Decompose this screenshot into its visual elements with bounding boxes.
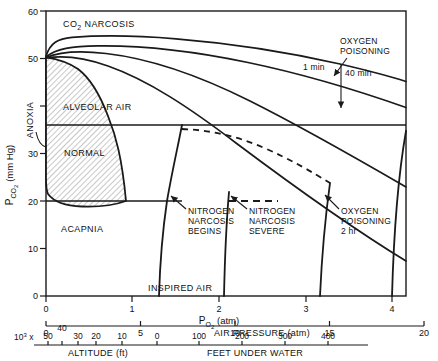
y-tick-0: 0 bbox=[33, 291, 38, 301]
altitude-prefix-base: 10 bbox=[14, 332, 24, 342]
depth-tick-400: 400 bbox=[321, 331, 335, 341]
normal-label: NORMAL bbox=[64, 148, 105, 158]
alt-tick-0: 0 bbox=[155, 331, 160, 341]
inspired-air-label: INSPIRED AIR bbox=[148, 283, 212, 293]
x-tick-4: 4 bbox=[389, 304, 394, 314]
op2-line3: 2 hr bbox=[341, 226, 356, 236]
y-tick-60: 60 bbox=[28, 7, 38, 17]
alveolar-air-label: ALVEOLAR AIR bbox=[63, 102, 132, 112]
ap-tick-5: 5 bbox=[138, 328, 143, 338]
y-axis-title-units: (mm Hg) bbox=[4, 145, 15, 182]
alt-tick-40: 40 bbox=[57, 323, 67, 333]
alt-tick-50: 50 bbox=[43, 331, 53, 341]
ap-tick-20: 20 bbox=[419, 328, 429, 338]
y-axis-tick-labels: 60 50 30 20 10 0 bbox=[28, 7, 38, 301]
y-tick-30: 30 bbox=[28, 149, 38, 159]
altitude-prefix-x: x bbox=[29, 332, 34, 342]
co2-narcosis-label: CO2 NARCOSIS bbox=[63, 19, 135, 31]
y-axis-title-sub: CO bbox=[10, 187, 17, 198]
alt-tick-20: 20 bbox=[91, 331, 101, 341]
co2-narcosis-label-main: CO bbox=[63, 19, 77, 29]
forty-min-label: 40 min bbox=[345, 68, 372, 78]
figure-root: 60 50 30 20 10 0 PCO2 (mm Hg) ANOXIA 0 bbox=[0, 0, 438, 361]
x-axis-primary-labels: 0 1 2 3 4 bbox=[43, 304, 394, 314]
op2-line2: POISONING bbox=[341, 216, 391, 226]
depth-tick-300: 300 bbox=[278, 331, 292, 341]
nnb-line1: NITROGEN bbox=[188, 206, 234, 216]
nns-line1: NITROGEN bbox=[249, 206, 295, 216]
alt-tick-30: 30 bbox=[73, 331, 83, 341]
op2-line1: OXYGEN bbox=[341, 206, 379, 216]
air-pressure-ticks bbox=[46, 321, 424, 326]
y-axis-ticks bbox=[40, 11, 46, 296]
alt-tick-10: 10 bbox=[117, 331, 127, 341]
y-axis-title: PCO2 (mm Hg) bbox=[4, 145, 19, 205]
oxygen-poisoning-top-line2: POISONING bbox=[340, 46, 390, 56]
svg-text:ANOXIA: ANOXIA bbox=[25, 102, 35, 138]
nnb-line2: NARCOSIS bbox=[188, 216, 234, 226]
x-axis-primary-ticks bbox=[46, 296, 392, 302]
anoxia-leader-line bbox=[36, 132, 46, 147]
x-tick-0: 0 bbox=[43, 304, 48, 314]
svg-text:PCO2 (mm Hg): PCO2 (mm Hg) bbox=[4, 145, 19, 205]
anoxia-label: ANOXIA bbox=[25, 102, 35, 138]
nns-line3: SEVERE bbox=[249, 226, 285, 236]
depth-tick-200: 200 bbox=[235, 331, 249, 341]
altitude-axis-title: ALTITUDE (ft) bbox=[68, 348, 128, 358]
acapnia-label: ACAPNIA bbox=[61, 224, 103, 234]
nns-line2: NARCOSIS bbox=[249, 216, 295, 226]
x-axis-title-units: (atm) bbox=[217, 315, 239, 326]
co2-narcosis-label-rest: NARCOSIS bbox=[82, 19, 135, 29]
depth-axis-title: FEET UNDER WATER bbox=[207, 348, 303, 358]
oxygen-poisoning-top-line1: OXYGEN bbox=[340, 36, 378, 46]
x-tick-2: 2 bbox=[216, 304, 221, 314]
depth-tick-100: 100 bbox=[192, 331, 206, 341]
air-pressure-title: AIR PRESSURE (atm) bbox=[214, 328, 310, 338]
y-tick-20: 20 bbox=[28, 197, 38, 207]
altitude-prefix: 103 x bbox=[14, 332, 34, 342]
y-tick-10: 10 bbox=[28, 244, 38, 254]
one-min-label: 1 min bbox=[303, 62, 325, 72]
x-tick-1: 1 bbox=[129, 304, 134, 314]
nnb-line3: BEGINS bbox=[188, 226, 221, 236]
y-tick-50: 50 bbox=[28, 54, 38, 64]
chart-svg: 60 50 30 20 10 0 PCO2 (mm Hg) ANOXIA 0 bbox=[0, 0, 438, 361]
x-tick-3: 3 bbox=[303, 304, 308, 314]
